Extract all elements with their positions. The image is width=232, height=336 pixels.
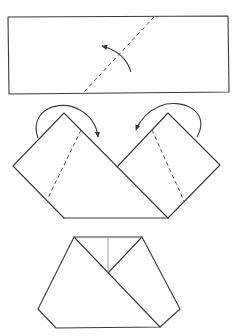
left-flap-fold-line <box>48 130 81 198</box>
right-fold-arrow-icon <box>136 104 201 137</box>
step-1-figure <box>8 16 229 94</box>
inner-flap-line <box>108 237 142 273</box>
step-3-figure <box>38 237 180 328</box>
diagram-svg <box>0 0 232 336</box>
hexagon-outline <box>38 237 180 328</box>
step-2-figure <box>13 104 220 218</box>
diagonal-overlap-line <box>74 237 160 327</box>
folding-diagram <box>0 0 232 336</box>
right-flap-fold-line <box>152 130 184 201</box>
diagonal-fold-line <box>83 17 154 93</box>
fold-arrow-icon <box>102 46 131 72</box>
right-flap-outline <box>117 113 220 218</box>
